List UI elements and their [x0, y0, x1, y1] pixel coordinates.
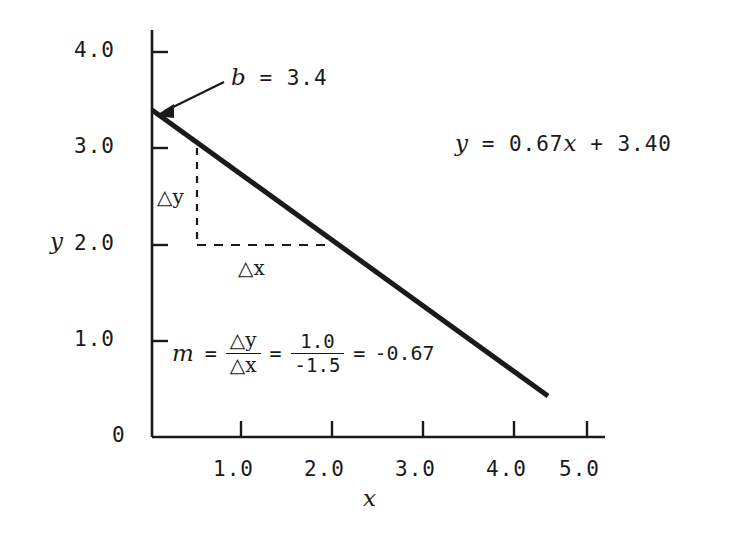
line-equation: y = 0.67x + 3.40 — [455, 130, 672, 156]
x-tick-label-3: 3.0 — [395, 457, 436, 481]
x-tick-label-5: 5.0 — [559, 457, 600, 481]
slope-rise-value: 1.0 — [296, 331, 338, 353]
chart-figure: 4.0 3.0 2.0 1.0 0 1.0 2.0 3.0 4.0 5.0 y … — [0, 0, 741, 536]
x-tick-label-4: 4.0 — [486, 457, 527, 481]
y-tick-label-2: 2.0 — [74, 231, 115, 255]
slope-delta-y: △y — [226, 330, 261, 353]
slope-m-symbol: m — [172, 340, 196, 366]
slope-equals-3: = — [344, 341, 374, 365]
equation-y-symbol: y — [455, 130, 468, 156]
y-axis-label: y — [50, 228, 63, 254]
intercept-value: = 3.4 — [246, 66, 328, 90]
slope-equals-2: = — [261, 341, 291, 365]
equation-x-symbol: x — [564, 130, 577, 156]
x-tick-label-1: 1.0 — [213, 457, 254, 481]
y-tick-label-4: 4.0 — [74, 38, 115, 62]
slope-result-value: -0.67 — [374, 341, 434, 365]
chart-svg — [0, 0, 741, 536]
intercept-symbol: b — [231, 64, 246, 90]
slope-equals-1: = — [196, 341, 226, 365]
x-axis-label: x — [363, 485, 376, 511]
slope-formula: m = △y △x = 1.0 -1.5 = -0.67 — [172, 330, 435, 376]
intercept-annotation: b = 3.4 — [231, 64, 328, 90]
slope-run-value: -1.5 — [291, 353, 345, 376]
delta-x-label: △x — [238, 256, 265, 280]
slope-delta-fraction: △y △x — [226, 330, 261, 376]
x-axis-ticks — [241, 421, 587, 437]
equation-body: = 0.67 — [468, 132, 564, 156]
y-tick-label-1: 1.0 — [74, 327, 115, 351]
slope-delta-x: △x — [226, 353, 261, 377]
y-tick-label-0: 0 — [112, 423, 126, 447]
delta-y-label: △y — [157, 185, 184, 209]
equation-tail: + 3.40 — [577, 132, 673, 156]
intercept-arrow — [155, 82, 224, 118]
slope-numeric-fraction: 1.0 -1.5 — [291, 331, 345, 375]
y-tick-label-3: 3.0 — [74, 134, 115, 158]
x-tick-label-2: 2.0 — [304, 457, 345, 481]
